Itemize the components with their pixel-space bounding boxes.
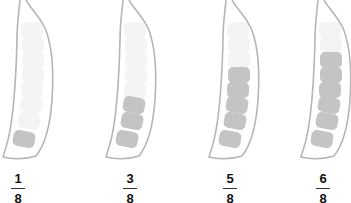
- filled-segment: [228, 67, 250, 83]
- bean-pod-1: [3, 0, 53, 159]
- filled-segment: [227, 82, 249, 98]
- filled-segment: [223, 111, 247, 131]
- empty-segment: [125, 52, 147, 68]
- numerator: 3: [120, 172, 140, 185]
- bean-pods-diagram: [0, 0, 351, 203]
- filled-segment: [225, 95, 249, 115]
- filled-segment: [315, 111, 339, 131]
- empty-segment: [22, 52, 44, 68]
- fraction-label-2: 3 8: [120, 172, 140, 203]
- filled-segment: [120, 111, 144, 131]
- empty-segment: [21, 22, 43, 38]
- denominator: 8: [313, 192, 333, 203]
- empty-segment: [19, 95, 43, 115]
- empty-segment: [125, 37, 147, 53]
- empty-segment: [228, 37, 250, 53]
- filled-segment: [218, 129, 242, 149]
- empty-segment: [320, 37, 342, 53]
- filled-segment: [122, 95, 146, 115]
- fraction-bar: [123, 188, 137, 189]
- filled-segment: [320, 52, 342, 68]
- fraction-bar: [316, 188, 330, 189]
- bean-pod-3: [209, 0, 259, 159]
- filled-segment: [115, 129, 139, 149]
- empty-segment: [124, 22, 146, 38]
- fraction-bar: [11, 188, 25, 189]
- empty-segment: [124, 82, 146, 98]
- empty-segment: [227, 22, 249, 38]
- denominator: 8: [8, 192, 28, 203]
- filled-segment: [320, 67, 342, 83]
- empty-segment: [22, 67, 44, 83]
- numerator: 5: [220, 172, 240, 185]
- denominator: 8: [220, 192, 240, 203]
- filled-segment: [12, 129, 36, 149]
- filled-segment: [310, 129, 334, 149]
- fraction-label-4: 6 8: [313, 172, 333, 203]
- filled-segment: [319, 82, 341, 98]
- denominator: 8: [120, 192, 140, 203]
- filled-segment: [317, 95, 341, 115]
- empty-segment: [319, 22, 341, 38]
- fraction-bar: [223, 188, 237, 189]
- bean-pod-2: [106, 0, 156, 159]
- numerator: 6: [313, 172, 333, 185]
- bean-pod-4: [301, 0, 351, 159]
- fraction-label-3: 5 8: [220, 172, 240, 203]
- numerator: 1: [8, 172, 28, 185]
- empty-segment: [22, 37, 44, 53]
- empty-segment: [21, 82, 43, 98]
- empty-segment: [125, 67, 147, 83]
- empty-segment: [228, 52, 250, 68]
- empty-segment: [17, 111, 41, 131]
- fraction-label-1: 1 8: [8, 172, 28, 203]
